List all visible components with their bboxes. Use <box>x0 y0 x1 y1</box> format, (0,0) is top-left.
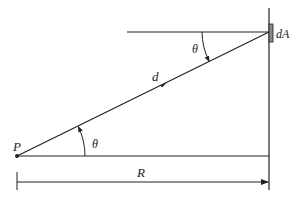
angle-arc-top <box>202 32 209 61</box>
area-element-dA <box>269 24 273 42</box>
point-P <box>15 154 19 158</box>
label-theta-top: θ <box>192 42 198 56</box>
geometry-diagram: P dA d θ θ R <box>0 0 302 202</box>
label-dA: dA <box>276 27 290 41</box>
angle-arc-bottom <box>79 127 86 156</box>
distance-line-d <box>17 32 269 156</box>
label-theta-bottom: θ <box>92 137 98 151</box>
label-P: P <box>12 139 21 154</box>
label-R: R <box>136 165 145 180</box>
label-d: d <box>152 69 159 84</box>
